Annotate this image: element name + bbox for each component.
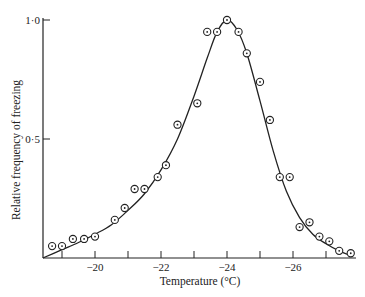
data-point [58,243,65,250]
fitted-curve [43,20,351,258]
x-tick-label: −20 [86,261,104,273]
x-axis-label: Temperature (°C) [160,275,241,288]
data-point [243,50,250,57]
x-tick-label: −22 [152,261,169,273]
data-points [49,16,355,256]
y-ticks [43,20,50,139]
y-tick-label: 1·0 [25,14,40,26]
data-point [214,28,221,35]
freezing-frequency-chart: −20−22−24−26 1·00·5 Temperature (°C) Rel… [0,0,365,297]
data-point [256,78,263,85]
data-point [286,173,293,180]
x-tick-label: −26 [284,261,302,273]
data-point [141,185,148,192]
data-point [336,247,343,254]
data-point [111,216,118,223]
x-ticks [62,251,326,258]
data-point [316,233,323,240]
x-tick-labels: −20−22−24−26 [86,261,302,273]
y-tick-label: 0·5 [25,133,40,145]
data-point [204,28,211,35]
data-point [296,223,303,230]
x-tick-label: −24 [218,261,236,273]
data-point [131,185,138,192]
y-tick-labels: 1·00·5 [25,14,40,145]
data-point [69,235,76,242]
data-point [174,121,181,128]
data-point [347,250,354,257]
data-point [91,233,98,240]
data-point [154,173,161,180]
data-point [235,28,242,35]
data-point [121,204,128,211]
data-point [306,219,313,226]
data-point [266,116,273,123]
data-point [49,243,56,250]
data-point [276,173,283,180]
data-point [326,238,333,245]
data-point [223,16,230,23]
data-point [162,162,169,169]
data-point [81,235,88,242]
data-point [194,100,201,107]
y-axis-label: Relative frequency of freezing [10,80,23,220]
